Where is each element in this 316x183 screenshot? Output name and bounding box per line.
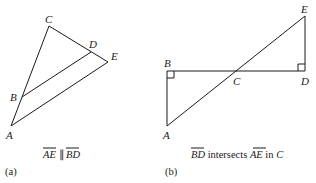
caption-b-text: BD intersects AE in C: [191, 149, 284, 160]
point-label-D: D: [88, 38, 97, 50]
segment-BD: [22, 52, 91, 97]
figure-b-tag: (b): [165, 166, 178, 178]
figure-a: C D E B A AE ∥ BD (a): [5, 13, 118, 178]
point-label-C: C: [233, 75, 241, 87]
point-label-E: E: [300, 3, 308, 15]
point-label-B: B: [10, 91, 17, 103]
figure-a-tag: (a): [5, 166, 17, 178]
point-label-A: A: [162, 129, 170, 141]
segment-CE: [49, 26, 108, 62]
point-label-B: B: [164, 57, 171, 69]
figure-b: E B C D A BD intersects AE in C (b): [162, 3, 309, 178]
point-label-A: A: [5, 129, 13, 141]
diagram-canvas: C D E B A AE ∥ BD (a) E B C D A BD inter…: [0, 0, 316, 183]
caption-a-seg2: BD: [66, 149, 80, 160]
caption-b-text2: in: [263, 149, 276, 160]
caption-b-seg1: BD: [191, 149, 205, 160]
caption-a: AE ∥ BD: [42, 148, 80, 161]
caption-b-point: C: [276, 149, 284, 160]
caption-b: BD intersects AE in C: [191, 148, 284, 160]
caption-b-seg2: AE: [249, 149, 263, 160]
point-label-D: D: [300, 75, 309, 87]
right-angle-mark-B: [167, 71, 174, 78]
caption-a-relation: ∥: [59, 149, 65, 161]
segment-AE: [11, 62, 108, 126]
point-label-C: C: [45, 13, 53, 25]
segment-AC: [11, 26, 49, 126]
caption-b-text1: intersects: [205, 149, 250, 160]
point-label-E: E: [110, 50, 118, 62]
caption-a-seg1: AE: [42, 149, 56, 160]
right-angle-mark-D: [298, 64, 305, 71]
